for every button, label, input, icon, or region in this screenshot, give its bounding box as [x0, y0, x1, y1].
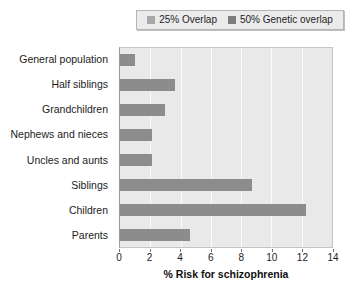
bar-uncles-and-aunts	[120, 154, 152, 166]
schizophrenia-risk-bar-chart: 25% Overlap 50% Genetic overlap General …	[0, 0, 354, 293]
x-tick-label-6: 6	[208, 252, 214, 263]
legend-swatch-25-overlap	[147, 16, 155, 24]
bar-siblings	[120, 179, 252, 191]
bar-grandchildren	[120, 104, 165, 116]
legend-item-25-overlap: 25% Overlap	[147, 15, 217, 25]
bar-row-nephews-and-nieces	[120, 123, 332, 148]
bar-row-parents	[120, 222, 332, 247]
y-axis-label-children: Children	[0, 198, 113, 223]
bar-half-siblings	[120, 79, 175, 91]
bar-nephews-and-nieces	[120, 129, 152, 141]
x-axis-ticks: 02468101214	[119, 249, 333, 263]
bar-children	[120, 204, 306, 216]
plot-area	[119, 47, 333, 248]
bar-series-group	[120, 48, 332, 247]
y-axis-label-siblings: Siblings	[0, 173, 113, 198]
y-axis-label-half-siblings: Half siblings	[0, 72, 113, 97]
chart-legend: 25% Overlap 50% Genetic overlap	[136, 10, 344, 30]
x-tick-label-10: 10	[266, 252, 277, 263]
x-tick-label-14: 14	[327, 252, 338, 263]
legend-swatch-50-genetic-overlap	[228, 16, 236, 24]
x-tick-label-2: 2	[147, 252, 153, 263]
x-tick-label-0: 0	[116, 252, 122, 263]
y-axis-category-labels: General population Half siblings Grandch…	[0, 47, 113, 248]
legend-label-25-overlap: 25% Overlap	[159, 15, 217, 25]
bar-row-half-siblings	[120, 73, 332, 98]
gridline-14	[332, 48, 333, 247]
legend-item-50-genetic-overlap: 50% Genetic overlap	[228, 15, 333, 25]
bar-row-grandchildren	[120, 98, 332, 123]
x-tick-label-4: 4	[177, 252, 183, 263]
bar-row-general-population	[120, 48, 332, 73]
x-tick-label-8: 8	[239, 252, 245, 263]
y-axis-label-general-population: General population	[0, 47, 113, 72]
y-axis-label-uncles-and-aunts: Uncles and aunts	[0, 148, 113, 173]
y-axis-label-grandchildren: Grandchildren	[0, 97, 113, 122]
x-tick-label-12: 12	[297, 252, 308, 263]
legend-label-50-genetic-overlap: 50% Genetic overlap	[240, 15, 333, 25]
bar-row-uncles-and-aunts	[120, 148, 332, 173]
y-axis-label-parents: Parents	[0, 223, 113, 248]
bar-row-siblings	[120, 172, 332, 197]
bar-row-children	[120, 197, 332, 222]
bar-parents	[120, 229, 190, 241]
x-axis-title: % Risk for schizophrenia	[119, 268, 333, 280]
y-axis-label-nephews-and-nieces: Nephews and nieces	[0, 122, 113, 147]
bar-general-population	[120, 54, 135, 66]
